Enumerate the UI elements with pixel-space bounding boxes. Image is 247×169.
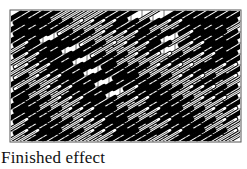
- stitch-diagram: [0, 0, 247, 150]
- stitch-layer: [4, 9, 247, 144]
- figure-caption: Finished effect: [1, 148, 105, 168]
